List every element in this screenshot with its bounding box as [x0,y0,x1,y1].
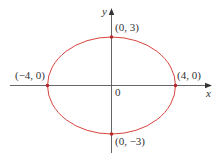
point-left-label: (−4, 0) [15,69,45,82]
y-axis-arrow-icon [109,8,114,15]
point-bottom-label: (0, −3) [115,135,145,148]
point-bottom [110,132,114,136]
origin-label: 0 [115,86,121,98]
y-axis-label: y [101,5,107,17]
point-top-label: (0, 3) [115,21,139,34]
x-axis-label: x [205,87,211,99]
ellipse-diagram: y x 0 (0, 3) (4, 0) (−4, 0) (0, −3) [0,0,222,159]
point-top [110,35,114,39]
point-right-label: (4, 0) [177,69,201,82]
point-right [174,84,178,88]
point-left [46,84,50,88]
